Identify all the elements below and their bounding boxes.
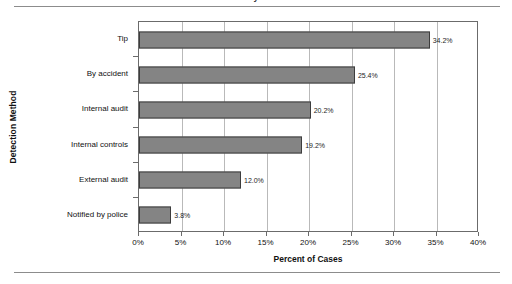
x-axis-tick <box>351 232 352 236</box>
bar-row: 19.2% <box>139 128 477 163</box>
bar-row: 20.2% <box>139 92 477 127</box>
bar-value-label: 12.0% <box>241 177 264 184</box>
y-axis-category-label: Notified by police <box>67 197 128 232</box>
cropped-chart-title-text: y <box>253 0 258 2</box>
cropped-chart-title: y <box>0 0 512 5</box>
x-axis-tick-label: 10% <box>215 238 231 247</box>
bar[interactable] <box>139 207 171 224</box>
y-axis-category-label: Internal controls <box>71 127 128 162</box>
bar[interactable] <box>139 66 355 83</box>
chart-figure: y Detection Method TipBy accidentInterna… <box>0 0 512 284</box>
bar-row: 3.8% <box>139 198 477 233</box>
x-axis-tick <box>478 232 479 236</box>
x-axis-tick-label: 35% <box>427 238 443 247</box>
bar-value-label: 3.8% <box>171 212 190 219</box>
bar-row: 25.4% <box>139 57 477 92</box>
x-axis-tick-label: 15% <box>257 238 273 247</box>
x-axis-tick <box>138 232 139 236</box>
x-axis-tick <box>181 232 182 236</box>
y-axis-category-label: Internal audit <box>82 91 128 126</box>
bottom-horizontal-rule <box>14 272 500 273</box>
bar-value-label: 20.2% <box>311 106 334 113</box>
y-axis-category-label: By accident <box>87 56 128 91</box>
y-axis-category-label: External audit <box>79 162 128 197</box>
x-axis-title: Percent of Cases <box>138 254 478 264</box>
bar-value-label: 19.2% <box>302 142 325 149</box>
x-axis-tick-label: 25% <box>342 238 358 247</box>
x-axis-tick <box>393 232 394 236</box>
bar[interactable] <box>139 101 311 118</box>
y-axis-category-labels: TipBy accidentInternal auditInternal con… <box>0 21 133 232</box>
top-horizontal-rule <box>14 6 500 7</box>
x-axis-tick <box>223 232 224 236</box>
bar-value-label: 34.2% <box>430 36 453 43</box>
bar[interactable] <box>139 137 302 154</box>
x-axis-tick-label: 5% <box>175 238 187 247</box>
x-axis-tick <box>266 232 267 236</box>
bar-value-label: 25.4% <box>355 71 378 78</box>
plot-area: 34.2%25.4%20.2%19.2%12.0%3.8% <box>138 21 478 232</box>
x-axis-tick-labels: 0%5%10%15%20%25%30%35%40% <box>0 238 512 250</box>
x-axis-tick <box>308 232 309 236</box>
y-axis-category-label: Tip <box>117 21 128 56</box>
x-axis-tick-label: 0% <box>132 238 144 247</box>
bar-row: 34.2% <box>139 22 477 57</box>
x-axis-tick <box>436 232 437 236</box>
bar[interactable] <box>139 172 241 189</box>
bar[interactable] <box>139 31 430 48</box>
x-axis-tick-label: 30% <box>385 238 401 247</box>
x-axis-tick-label: 40% <box>470 238 486 247</box>
x-axis-tick-label: 20% <box>300 238 316 247</box>
bar-row: 12.0% <box>139 163 477 198</box>
